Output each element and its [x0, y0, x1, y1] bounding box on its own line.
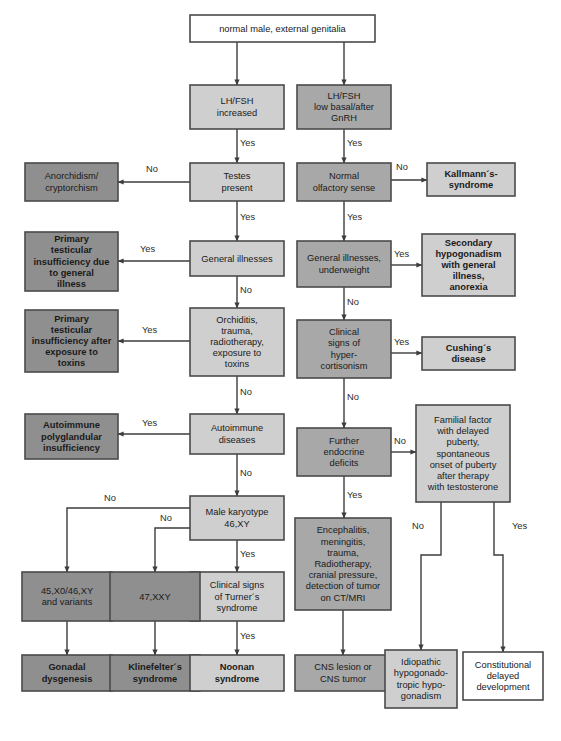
node-label-line: development — [476, 682, 530, 692]
node-label-line: after therapy — [437, 471, 490, 481]
edge-label-yes: Yes — [140, 244, 156, 254]
edge-label-no: No — [160, 513, 172, 523]
node-further-endocrine-deficits[interactable]: Furtherendocrinedeficits — [297, 428, 391, 476]
node-cns-lesion-or-cns-tumor[interactable]: CNS lesion orCNS tumor — [295, 655, 391, 691]
node-lh-fsh-low-basal-after-gnrh[interactable]: LH/FSHlow basal/afterGnRH — [297, 85, 391, 129]
node-label-line: Anorchidism/ — [45, 171, 99, 181]
node-cushings-disease[interactable]: Cushing´sdisease — [422, 337, 515, 370]
node-label-line: syndrome — [215, 674, 259, 684]
node-idiopathic-hypogonadotropic-hypogonadism[interactable]: Idiopathichypogonado-tropic hypo-gonadis… — [385, 650, 457, 708]
edge-clinical-hyper-to-further-endocrine: No — [344, 378, 359, 428]
edge-label-yes: Yes — [240, 631, 256, 641]
node-constitutional-delayed-development[interactable]: Constitutionaldelayeddevelopment — [463, 652, 543, 700]
node-label-line: Testes — [224, 171, 251, 181]
node-general-illnesses[interactable]: General illnesses — [190, 241, 284, 276]
edge-label-no: No — [104, 493, 116, 503]
node-label-line: Normal — [329, 171, 359, 181]
node-label-line: insufficiency after — [32, 336, 112, 346]
edge-lh-fsh-low-to-olfactory: Yes — [344, 129, 363, 163]
node-label-line: cranial pressure, — [309, 570, 378, 580]
node-anorchidism-cryptorchism[interactable]: Anorchidism/cryptorchism — [25, 163, 118, 201]
edge-label-yes: Yes — [240, 549, 256, 559]
node-label-line: Primary — [54, 234, 89, 244]
node-label-line: diseases — [219, 435, 256, 445]
node-label-line: Orchiditis, — [216, 315, 257, 325]
node-label-line: endocrine — [324, 447, 365, 457]
edge-label-no: No — [347, 297, 359, 307]
edge-turner-to-noonan: Yes — [237, 621, 256, 655]
node-clinical-signs-turners-syndrome[interactable]: Clinical signsof Turner´ssyndrome — [190, 572, 284, 621]
node-label-line: normal male, external genitalia — [219, 24, 346, 34]
node-autoimmune-diseases[interactable]: Autoimmunediseases — [190, 414, 284, 454]
node-testes-present[interactable]: Testespresent — [190, 163, 284, 201]
node-label-line: disease — [451, 354, 485, 364]
edge-orchiditis-to-primary-ti-toxins: Yes — [118, 325, 190, 341]
node-male-karyotype-46-xy[interactable]: Male karyotype46,XY — [190, 496, 284, 540]
node-label-line: puberty, — [447, 437, 480, 447]
node-label-line: Kallmann´s- — [444, 169, 497, 179]
edge-orchiditis-to-autoimmune: No — [237, 376, 252, 414]
node-klinefelters-syndrome[interactable]: Klinefelter´ssyndrome — [110, 655, 200, 691]
node-label-line: olfactory sense — [313, 183, 376, 193]
node-autoimmune-polyglandular-insufficiency[interactable]: Autoimmunepolyglandularinsufficiency — [25, 414, 118, 459]
node-45-x0-46-xy-and-variants[interactable]: 45,X0/46,XYand variants — [22, 572, 112, 621]
node-label-line: polyglandular — [41, 432, 102, 442]
node-label-line: syndrome — [449, 180, 493, 190]
edge-label-no: No — [412, 521, 424, 531]
node-label-line: 46,XY — [224, 519, 249, 529]
connector-line — [421, 502, 441, 650]
flowchart-container: YesYesNoNoYesYesYesYesNoNoYesYesNoNoYesN… — [0, 0, 561, 741]
node-label-line: toxins — [58, 358, 85, 368]
node-label-line: Radiotherapy, — [314, 559, 371, 569]
edge-further-endocrine-to-encephalitis: Yes — [344, 476, 363, 518]
node-primary-testicular-insufficiency-toxins[interactable]: Primarytesticularinsufficiency afterexpo… — [25, 310, 118, 372]
node-label-line: meningitis, — [321, 537, 365, 547]
node-label-line: Cushing´s — [446, 343, 491, 353]
node-lh-fsh-increased[interactable]: LH/FSHincreased — [190, 85, 284, 129]
node-label-line: signs of — [328, 338, 360, 348]
node-label-line: dysgenesis — [42, 674, 93, 684]
node-label-line: exposure to — [45, 347, 98, 357]
edge-label-no: No — [240, 285, 252, 295]
connector-line — [494, 502, 503, 652]
edge-label-yes: Yes — [240, 138, 256, 148]
node-secondary-hypogonadism-general-illness-anorexia[interactable]: Secondaryhypogonadismwith generalillness… — [422, 234, 515, 296]
node-encephalitis-meningitis-trauma-ct-mri[interactable]: Encephalitis,meningitis,trauma,Radiother… — [295, 518, 391, 610]
node-label-line: increased — [217, 108, 257, 118]
node-label-line: Male karyotype — [205, 507, 268, 517]
node-label-line: Familial factor — [434, 415, 492, 425]
edge-autoimmune-to-karyotype: No — [237, 454, 252, 496]
node-label-line: with general — [440, 260, 495, 270]
node-noonan-syndrome[interactable]: Noonansyndrome — [190, 655, 284, 691]
node-kallmanns-syndrome[interactable]: Kallmann´s-syndrome — [427, 163, 515, 196]
node-general-illnesses-underweight[interactable]: General illnesses,underweight — [297, 241, 391, 287]
edge-label-yes: Yes — [347, 212, 363, 222]
node-clinical-signs-hypercortisonism[interactable]: Clinicalsigns ofhyper-cortisonism — [297, 320, 391, 378]
node-label-line: Autoimmune — [211, 423, 263, 433]
node-label-line: detection of tumor — [306, 581, 380, 591]
node-primary-testicular-insufficiency-general-illness[interactable]: Primarytesticularinsufficiency dueto gen… — [25, 232, 118, 291]
node-label-line: with delayed — [436, 426, 489, 436]
node-47-xxy[interactable]: 47,XXY — [110, 572, 200, 621]
node-label-line: illness, — [453, 271, 485, 281]
node-gonadal-dysgenesis[interactable]: Gonadaldysgenesis — [22, 655, 112, 691]
edge-label-no: No — [146, 164, 158, 174]
edge-clinical-hyper-to-cushings: Yes — [391, 337, 422, 353]
node-label-line: low basal/after — [314, 102, 374, 112]
node-orchiditis-trauma-radiotherapy-toxins[interactable]: Orchiditis,trauma,radiotherapy,exposure … — [190, 308, 284, 376]
diagnostic-flowchart: YesYesNoNoYesYesYesYesNoNoYesYesNoNoYesN… — [0, 0, 561, 741]
edge-karyotype-no-to-47xxy: No — [155, 513, 190, 572]
node-label-line: on CT/MRI — [321, 593, 366, 603]
node-label-line: Idiopathic — [401, 657, 441, 667]
edge-general-illnesses-uw-to-clinical-hyper: No — [344, 287, 359, 320]
node-label-line: General illnesses — [201, 254, 273, 264]
node-label-line: hypogonadism — [435, 249, 501, 259]
node-normal-male-external-genitalia[interactable]: normal male, external genitalia — [190, 15, 375, 42]
node-label-line: trauma, — [327, 548, 359, 558]
node-familial-factor-delayed-puberty[interactable]: Familial factorwith delayedpuberty,spont… — [416, 405, 510, 502]
node-label-line: hyper- — [331, 350, 357, 360]
connector-line — [155, 528, 190, 572]
node-label-line: and variants — [42, 597, 93, 607]
node-label-line: Clinical — [329, 327, 359, 337]
node-normal-olfactory-sense[interactable]: Normalolfactory sense — [297, 163, 391, 201]
